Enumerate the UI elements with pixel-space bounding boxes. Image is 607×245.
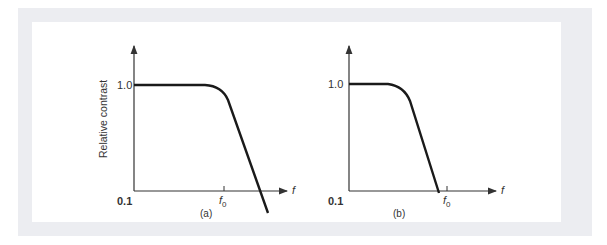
y-axis-label-a: Relative contrast (97, 80, 109, 158)
f0-label-a: f0 (219, 194, 227, 209)
y-tick-bottom-b: 0.1 (328, 195, 343, 207)
y-tick-top-b: 1.0 (328, 78, 343, 90)
figure-svg: 1.0 0.1 Relative contrast f f0 (a) 1.0 0… (0, 0, 607, 245)
panel-b: 1.0 0.1 f f0 (b) (328, 46, 505, 219)
caption-a: (a) (200, 208, 212, 219)
panel-a: 1.0 0.1 Relative contrast f f0 (a) (97, 46, 296, 219)
y-tick-top-a: 1.0 (117, 79, 132, 91)
f0-label-b: f0 (443, 194, 451, 209)
x-axis-label-b: f (501, 184, 505, 196)
response-curve-b (349, 84, 439, 193)
response-curve-a (134, 85, 268, 213)
x-axis-label-a: f (292, 184, 296, 196)
y-tick-bottom-a: 0.1 (117, 195, 132, 207)
caption-b: (b) (393, 208, 405, 219)
